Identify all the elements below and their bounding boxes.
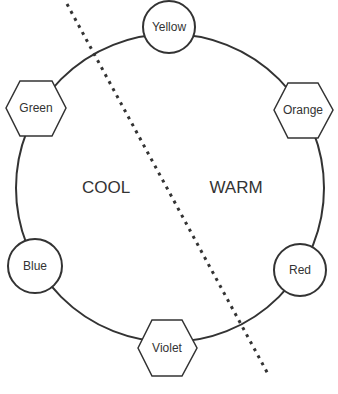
node-yellow-label: Yellow — [152, 20, 187, 34]
color-wheel-ring — [16, 34, 324, 342]
node-green-label: Green — [19, 101, 52, 115]
node-violet-label: Violet — [152, 341, 182, 355]
node-green: Green — [6, 81, 66, 136]
node-blue-label: Blue — [23, 259, 47, 273]
node-blue: Blue — [8, 239, 62, 293]
cool-region-label: COOL — [82, 178, 130, 197]
node-yellow: Yellow — [143, 1, 195, 53]
node-red-label: Red — [289, 263, 311, 277]
node-red: Red — [274, 244, 326, 296]
warm-region-label: WARM — [209, 178, 262, 197]
node-orange: Orange — [274, 83, 333, 138]
color-wheel-diagram: COOL WARM Yellow Orange Red Violet Blue … — [0, 0, 338, 394]
node-orange-label: Orange — [283, 103, 323, 117]
node-violet: Violet — [138, 320, 197, 376]
